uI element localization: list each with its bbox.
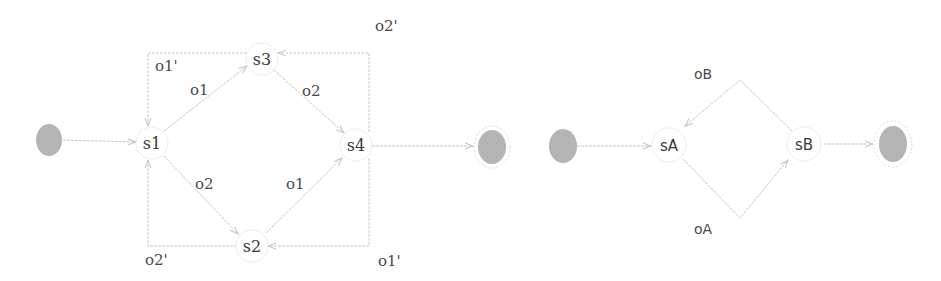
state-s2[interactable]: s2 xyxy=(236,230,268,262)
edge-label-sA-to-sB: oA xyxy=(694,221,713,237)
edge-s2-to-s1[interactable] xyxy=(148,160,237,246)
edge-s1-to-s2[interactable] xyxy=(164,156,238,234)
state-sB-label: sB xyxy=(795,136,813,154)
edge-label-s2-to-s4: o1 xyxy=(286,175,305,193)
edge-s2-to-s4[interactable] xyxy=(266,158,342,233)
state-diagrams-canvas: s1 s2 s3 s4 o1' o1 o2 o2' o2 o1 o2' o1' xyxy=(0,0,941,281)
edge-sB-to-sA[interactable] xyxy=(685,80,792,131)
final-state-left[interactable] xyxy=(474,126,510,168)
state-s1[interactable]: s1 xyxy=(136,127,168,159)
state-sA[interactable]: sA xyxy=(652,128,686,162)
edge-label-sB-to-sA: oB xyxy=(694,66,712,82)
left-state-diagram: s1 s2 s3 s4 o1' o1 o2 o2' o2 o1 o2' o1' xyxy=(36,17,510,270)
edge-s4-to-s3[interactable] xyxy=(278,53,369,132)
edge-label-s3-to-s4: o2 xyxy=(302,82,321,100)
edge-label-s4-to-s3: o2' xyxy=(375,17,398,35)
edge-label-s3-to-s1: o1' xyxy=(155,57,178,75)
state-sB[interactable]: sB xyxy=(787,127,821,161)
edge-label-s1-to-s2: o2 xyxy=(195,175,214,193)
edge-label-s1-to-s3: o1 xyxy=(190,81,209,99)
state-s4[interactable]: s4 xyxy=(340,129,372,161)
right-state-diagram: sA sB oB oA xyxy=(549,66,912,237)
state-s2-label: s2 xyxy=(243,237,261,256)
edge-label-s2-to-s1: o2' xyxy=(145,251,168,269)
initial-pseudostate-left[interactable] xyxy=(36,124,62,156)
state-s3-label: s3 xyxy=(253,50,271,69)
final-state-right[interactable] xyxy=(874,121,912,167)
initial-pseudostate-right[interactable] xyxy=(549,129,577,163)
edge-sA-to-sB[interactable] xyxy=(683,159,788,218)
state-sA-label: sA xyxy=(660,137,679,155)
edge-initial-to-s1[interactable] xyxy=(63,140,136,142)
state-s4-label: s4 xyxy=(347,136,365,155)
edge-s3-to-s4[interactable] xyxy=(274,70,344,133)
edge-s4-to-s2[interactable] xyxy=(268,158,369,246)
state-s1-label: s1 xyxy=(143,134,161,153)
edge-label-s4-to-s2: o1' xyxy=(378,252,401,270)
state-s3[interactable]: s3 xyxy=(246,43,278,75)
